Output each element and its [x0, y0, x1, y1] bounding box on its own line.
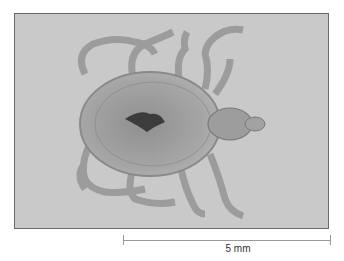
tick-mouthparts	[245, 117, 265, 131]
scale-bar	[123, 240, 331, 241]
specimen-photo	[14, 13, 329, 229]
scale-bar-label: 5 mm	[216, 243, 260, 254]
scale-bar-right-tick	[330, 235, 331, 245]
tick-illustration	[15, 14, 329, 229]
